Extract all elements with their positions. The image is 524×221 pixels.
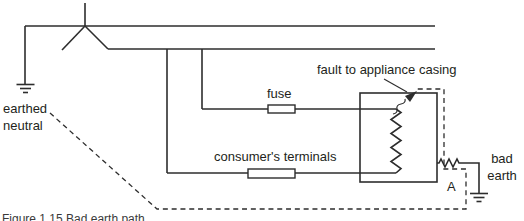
fault-to-appliance-casing-label: fault to appliance casing bbox=[317, 62, 456, 79]
circuit-diagram: earthed neutral fuse consumer's terminal… bbox=[0, 0, 524, 221]
earth-ground-icon-left bbox=[17, 26, 35, 93]
earth-ground-icon-right bbox=[470, 194, 488, 202]
live-conductor bbox=[202, 105, 396, 113]
diagram-linework bbox=[0, 0, 524, 221]
neutral-conductor bbox=[167, 169, 396, 178]
appliance-casing-box bbox=[360, 93, 437, 182]
consumer-terminals-block-icon bbox=[248, 169, 295, 178]
fuse-label: fuse bbox=[267, 86, 292, 103]
consumers-terminals-label: consumer's terminals bbox=[214, 149, 336, 166]
ammeter-label: A bbox=[447, 179, 456, 196]
earthed-neutral-label: earthed neutral bbox=[3, 101, 47, 134]
heating-element-coil-icon bbox=[391, 109, 401, 173]
figure-caption: Figure 1.15 Bad earth path bbox=[2, 212, 145, 221]
fuse-icon bbox=[268, 105, 295, 113]
bad-earth-resistor-icon bbox=[437, 159, 479, 193]
bad-earth-label: bad earth bbox=[484, 151, 520, 184]
